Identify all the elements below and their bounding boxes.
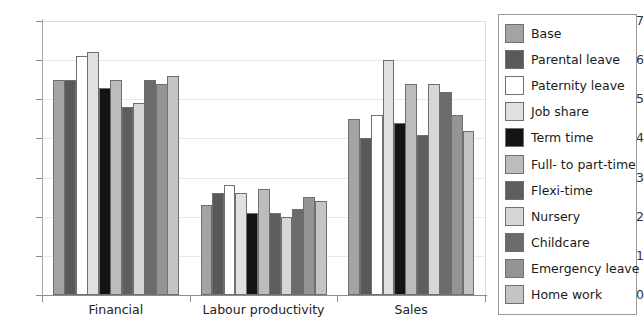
bar [394,123,406,295]
bar [463,131,475,295]
legend-swatch [505,50,524,69]
legend-label: Parental leave [531,52,620,67]
legend-item-job-share[interactable]: Job share [505,99,636,125]
bar [451,115,463,295]
chart-container: 00.10.20.30.40.50.60.7 FinancialLabour p… [0,0,644,327]
legend-swatch [505,259,524,278]
bar [371,115,383,295]
bar [405,84,417,295]
bar [428,84,440,295]
legend-swatch [505,181,524,200]
bar [303,197,315,295]
bar-group-sales [337,21,485,295]
legend-label: Full- to part-time [531,157,636,172]
x-axis-end-tick [42,295,43,302]
legend-label: Emergency leave [531,261,639,276]
legend-label: Nursery [531,209,580,224]
legend-swatch [505,102,524,121]
plot-right-border [485,21,486,295]
plot-area [42,21,485,295]
bar-group-financial [42,21,190,295]
bar [64,80,76,295]
x-axis-line [41,295,487,296]
bar [246,213,258,295]
bar [383,60,395,295]
chart-legend: BaseParental leavePaternity leaveJob sha… [498,14,637,315]
bar [133,103,145,295]
bar [235,193,247,295]
bar [440,92,452,296]
bar [417,135,429,296]
x-axis-label-labour-productivity: Labour productivity [190,303,338,317]
legend-item-flexi-time[interactable]: Flexi-time [505,177,636,203]
legend-label: Paternity leave [531,78,625,93]
bar [281,217,293,295]
legend-swatch [505,207,524,226]
legend-label: Base [531,26,561,41]
bar [110,80,122,295]
legend-label: Home work [531,287,602,302]
bar [212,193,224,295]
bar [144,80,156,295]
legend-item-parental-leave[interactable]: Parental leave [505,46,636,72]
legend-swatch [505,24,524,43]
legend-item-paternity-leave[interactable]: Paternity leave [505,72,636,98]
legend-swatch [505,76,524,95]
legend-item-childcare[interactable]: Childcare [505,230,636,256]
legend-item-home-work[interactable]: Home work [505,282,636,308]
bar [87,52,99,295]
bar [122,107,134,295]
bar [258,189,270,295]
bar [53,80,65,295]
legend-swatch [505,233,524,252]
bar [167,76,179,295]
legend-label: Term time [531,130,594,145]
legend-label: Childcare [531,235,590,250]
bar [360,138,372,295]
bar [315,201,327,295]
x-axis-label-sales: Sales [337,303,485,317]
plot-top-border [42,21,485,22]
legend-item-full-to-part-time[interactable]: Full- to part-time [505,151,636,177]
legend-swatch [505,285,524,304]
x-axis-group-separator [190,295,191,302]
bar [269,213,281,295]
legend-label: Flexi-time [531,183,593,198]
bar [348,119,360,295]
legend-item-emergency-leave[interactable]: Emergency leave [505,256,636,282]
bar [156,84,168,295]
bar-group-labour-productivity [190,21,338,295]
bar [201,205,213,295]
y-axis-line [42,19,43,297]
bar [292,209,304,295]
bar [99,88,111,296]
legend-label: Job share [531,104,589,119]
legend-item-term-time[interactable]: Term time [505,125,636,151]
legend-item-base[interactable]: Base [505,20,636,46]
legend-swatch [505,155,524,174]
x-axis-group-separator [337,295,338,302]
x-axis-label-financial: Financial [42,303,190,317]
bar [224,185,236,295]
legend-item-nursery[interactable]: Nursery [505,203,636,229]
bar [76,56,88,295]
x-axis-end-tick [485,295,486,302]
legend-swatch [505,128,524,147]
